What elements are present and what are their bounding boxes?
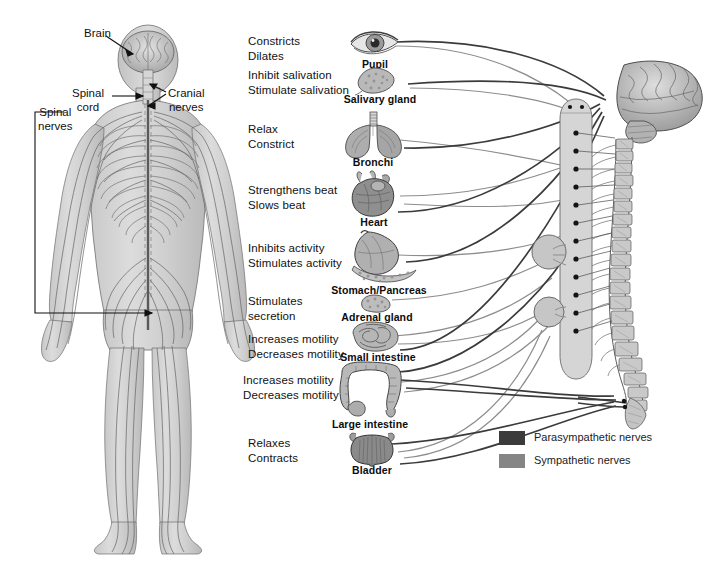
- effect-line: Constrict: [248, 138, 294, 150]
- effect-label-stomach-pancreas: Inhibits activityStimulates activity: [248, 241, 342, 270]
- effect-line: Inhibits activity: [248, 242, 324, 254]
- effect-line: Inhibit salivation: [248, 69, 332, 81]
- celiac-ganglion: [532, 235, 566, 269]
- legend-swatch-parasympathetic: [499, 431, 525, 445]
- effect-label-adrenal-gland: Stimulatessecretion: [248, 294, 303, 323]
- effect-line: Stimulates activity: [248, 257, 342, 269]
- effect-line: Constricts: [248, 35, 300, 47]
- stomach-icon: [338, 230, 420, 286]
- organ-name-heart: Heart: [346, 216, 402, 228]
- effect-line: Stimulates: [248, 295, 303, 307]
- effect-label-bronchi: RelaxConstrict: [248, 122, 294, 151]
- vertebral-column-icon: [584, 137, 648, 429]
- salivary-gland-icon: [354, 66, 398, 96]
- effect-label-bladder: RelaxesContracts: [248, 436, 298, 465]
- effect-line: Dilates: [248, 50, 284, 62]
- organ-name-salivary-gland: Salivary gland: [330, 93, 430, 105]
- effect-line: Relax: [248, 123, 278, 135]
- large-intestine-icon: [328, 360, 410, 418]
- legend: Parasympathetic nerves Sympathetic nerve…: [496, 426, 696, 472]
- small-intestine-icon: [346, 320, 404, 354]
- bladder-icon: [344, 428, 400, 468]
- lungs-icon: [340, 112, 406, 160]
- inferior-mesenteric-ganglion: [534, 297, 564, 327]
- effect-line: Increases motility: [248, 333, 339, 345]
- organ-name-bronchi: Bronchi: [340, 156, 406, 168]
- effect-line: Increases motility: [243, 374, 334, 386]
- cns-column: [520, 55, 720, 415]
- legend-swatch-sympathetic: [499, 454, 525, 468]
- effect-label-large-intestine: Increases motilityDecreases motility: [243, 373, 339, 402]
- heart-icon: [346, 170, 402, 220]
- effect-line: Relaxes: [248, 437, 290, 449]
- effect-line: Decreases motility: [243, 389, 339, 401]
- eye-icon: [348, 28, 402, 58]
- effect-label-heart: Strengthens beatSlows beat: [248, 183, 337, 212]
- brain-icon: [617, 61, 702, 143]
- sympathetic-chain-icon: [560, 99, 615, 379]
- effect-label-pupil: ConstrictsDilates: [248, 34, 300, 63]
- legend-label-parasympathetic: Parasympathetic nerves: [534, 431, 652, 443]
- effect-line: secretion: [248, 310, 296, 322]
- effect-line: Contracts: [248, 452, 298, 464]
- organ-name-bladder: Bladder: [344, 464, 400, 476]
- effect-line: Strengthens beat: [248, 184, 337, 196]
- legend-label-sympathetic: Sympathetic nerves: [534, 454, 631, 466]
- diagram-canvas: Brain Spinal cord Cranial nerves Spinal …: [0, 0, 722, 562]
- effect-line: Slows beat: [248, 199, 305, 211]
